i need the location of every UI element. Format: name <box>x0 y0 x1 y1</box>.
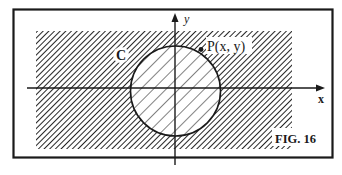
curve-c-label: C <box>116 48 126 63</box>
figure-16-diagram: y x P(x, y) C FIG. 16 <box>0 0 342 175</box>
x-axis-label: x <box>318 92 324 106</box>
figure-caption: FIG. 16 <box>275 132 316 146</box>
point-p-marker <box>199 47 204 52</box>
y-axis-label: y <box>183 12 190 26</box>
point-p-label: P(x, y) <box>207 39 245 55</box>
